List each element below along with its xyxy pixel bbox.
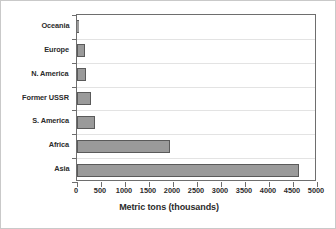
x-axis-tick-label: 2000 (164, 186, 180, 195)
bar-n-america (77, 68, 86, 81)
y-axis-tick (72, 110, 77, 111)
bar-former-ussr (77, 92, 91, 105)
y-axis-tick (72, 134, 77, 135)
y-axis-label: Asia (54, 164, 69, 173)
x-axis-tick-label: 5000 (308, 186, 324, 195)
x-axis-tick-label: 2500 (188, 186, 204, 195)
bar-s-america (77, 116, 95, 129)
x-axis-tick-label: 4500 (284, 186, 300, 195)
grid-line (77, 39, 315, 40)
y-axis-label: Oceania (41, 21, 69, 30)
y-axis-tick (72, 63, 77, 64)
chart-figure: Metric tons (thousands) OceaniaEuropeN. … (0, 0, 336, 229)
x-axis-tick-label: 0 (74, 186, 78, 195)
y-axis-label: Africa (49, 140, 69, 149)
y-axis-tick (72, 87, 77, 88)
grid-line (77, 110, 315, 111)
grid-line (77, 134, 315, 135)
y-axis-label: S. America (32, 116, 69, 125)
grid-line (77, 87, 315, 88)
bar-africa (77, 140, 170, 153)
y-axis-tick (72, 39, 77, 40)
y-axis-label: Former USSR (22, 93, 69, 102)
plot-area (76, 14, 316, 181)
y-axis-label: N. America (32, 69, 69, 78)
x-axis-tick-label: 4000 (260, 186, 276, 195)
x-axis-tick-label: 1000 (116, 186, 132, 195)
x-axis-tick-label: 3000 (212, 186, 228, 195)
y-axis-tick (72, 158, 77, 159)
bar-europe (77, 44, 85, 57)
x-axis-tick-label: 500 (94, 186, 106, 195)
x-axis-title: Metric tons (thousands) (1, 202, 336, 212)
y-axis-tick (72, 15, 77, 16)
x-axis-tick-label: 1500 (140, 186, 156, 195)
grid-line (77, 158, 315, 159)
bar-oceania (77, 20, 79, 33)
bar-asia (77, 164, 299, 177)
x-axis-tick-label: 3500 (236, 186, 252, 195)
y-axis-label: Europe (44, 45, 69, 54)
grid-line (77, 63, 315, 64)
